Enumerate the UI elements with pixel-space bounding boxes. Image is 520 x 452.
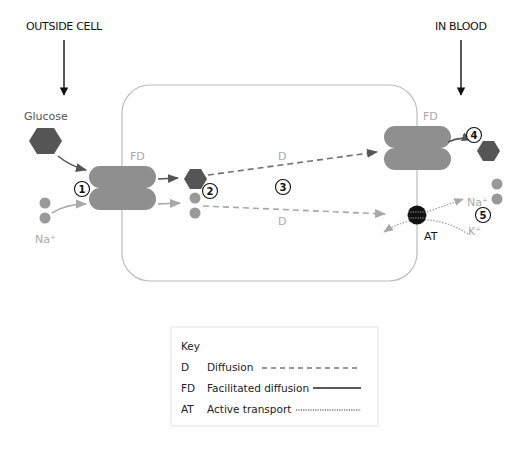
active-transport-label: AT [424, 230, 438, 243]
sodium-ion-icon [190, 193, 201, 204]
legend-abbr-facilitated: FD [181, 382, 195, 394]
in-blood-header: IN BLOOD [435, 20, 487, 95]
sodium-into-cell-arrow [158, 203, 180, 204]
diffusion-bottom-label: D [278, 215, 286, 228]
fd-left-transporter-protein [89, 166, 156, 210]
fd-right-label: FD [423, 110, 438, 123]
step-3-number: 3 [280, 182, 287, 193]
legend-label-facilitated: Facilitated diffusion [207, 382, 309, 394]
potassium-label: K⁺ [468, 225, 481, 238]
glucose-molecule-icon [184, 169, 207, 189]
fd-left-label: FD [130, 150, 145, 163]
sodium-pump-out-arrow [424, 199, 463, 213]
glucose-into-cell-arrow [158, 178, 178, 179]
sodium-label: Na⁺ [35, 233, 56, 246]
legend-title: Key [181, 340, 200, 352]
cell-membrane [122, 85, 417, 281]
glucose-absorption-diagram: OUTSIDE CELL IN BLOOD Glucose Na⁺ FD 1 2… [0, 0, 520, 452]
legend-label-diffusion: Diffusion [207, 361, 253, 373]
legend-label-active: Active transport [207, 403, 291, 415]
legend-abbr-active: AT [181, 403, 194, 415]
glucose-label: Glucose [24, 110, 68, 123]
sodium-ion-icon [40, 198, 51, 209]
step-4-number: 4 [471, 130, 478, 141]
glucose-diffusion-arrow [208, 152, 377, 175]
legend-key: Key D Diffusion FD Facilitated diffusion… [171, 327, 378, 426]
step-2-number: 2 [207, 186, 214, 197]
potassium-into-cell-arrow [384, 221, 410, 232]
sodium-diffusion-arrow [203, 206, 385, 214]
glucose-molecule-icon [29, 128, 62, 154]
sodium-ion-icon [40, 213, 51, 224]
outside-cell-label: OUTSIDE CELL [26, 20, 103, 33]
step-1-number: 1 [79, 184, 86, 195]
sodium-potassium-pump-icon [408, 206, 427, 225]
glucose-molecule-icon [477, 141, 500, 161]
sodium-ion-icon [492, 194, 503, 205]
in-blood-label: IN BLOOD [435, 20, 487, 33]
sodium-ion-icon [190, 208, 201, 219]
sodium-blood-label: Na⁺ [467, 196, 488, 209]
fd-right-transporter-protein [384, 126, 451, 170]
sodium-entry-arrow [52, 204, 86, 213]
legend-abbr-diffusion: D [181, 361, 189, 373]
outside-cell-header: OUTSIDE CELL [26, 20, 103, 95]
diffusion-top-label: D [278, 150, 286, 163]
sodium-ion-icon [492, 179, 503, 190]
step-5-number: 5 [480, 210, 487, 221]
glucose-entry-arrow [58, 156, 86, 170]
